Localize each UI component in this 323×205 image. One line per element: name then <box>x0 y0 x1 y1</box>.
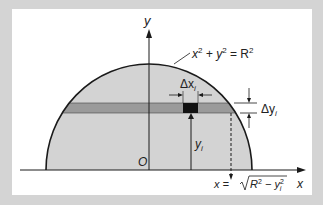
dashed-arrowhead <box>229 174 233 180</box>
svg-text:x =: x = <box>213 178 230 190</box>
svg-text:R2 − y2i: R2 − y2i <box>250 178 284 192</box>
origin-label: O <box>138 155 147 169</box>
delta-y-label: Δyi <box>261 102 277 118</box>
x-axis-arrowhead <box>297 167 306 173</box>
semicircle-diagram: y O x x2 + y2 = R2 Δxi Δyi yi x = R2 − y… <box>0 0 323 205</box>
dy-top-arrowhead <box>247 98 251 103</box>
x-boundary-equation: x = R2 − y2i <box>213 176 287 192</box>
horizontal-strip <box>40 103 260 113</box>
dy-bottom-arrowhead <box>247 113 251 118</box>
y-axis-label: y <box>143 13 152 28</box>
y-axis-arrowhead <box>146 29 152 38</box>
x-axis-label: x <box>296 177 304 191</box>
equation-leader <box>174 53 190 64</box>
curve-equation: x2 + y2 = R2 <box>191 46 254 61</box>
area-element <box>183 103 198 113</box>
delta-x-label: Δxi <box>180 77 196 93</box>
